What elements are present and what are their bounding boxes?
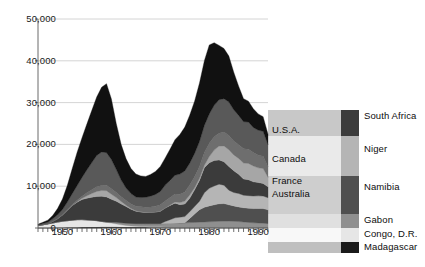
y-tick-label: 20,000 [2,139,56,149]
area-series-group [38,43,268,228]
legend-label-south-africa: South Africa [364,110,416,121]
legend-label-congo-d-r: Congo, D.R. [364,228,417,239]
inline-label-australia: Australia [272,188,310,199]
x-tick-label: 1960 [91,226,131,237]
inline-label-france: France [272,175,302,186]
x-tick-label: 1990 [238,226,278,237]
y-tick-label: 30,000 [2,98,56,108]
legend-swatch [341,242,359,253]
x-tick-label: 1980 [189,226,229,237]
legend-swatch [341,214,359,228]
legend-label-niger: Niger [364,143,387,154]
inline-label-u-s-a: U.S.A. [272,124,300,135]
legend-swatch-column [341,110,359,256]
y-tick-label: 50,000 [2,14,56,24]
legend-swatch [341,228,359,242]
legend-swatch [341,136,359,176]
legend-label-namibia: Namibia [364,181,400,192]
y-tick-label: 40,000 [2,56,56,66]
x-tick-label: 1950 [42,226,82,237]
y-tick-label: 10,000 [2,181,56,191]
inline-label-canada: Canada [272,153,306,164]
chart-figure: 010,00020,00030,00040,00050,000 19501960… [0,0,425,267]
x-tick-label: 1970 [140,226,180,237]
legend-swatch [341,176,359,214]
legend-swatch [341,110,359,136]
legend-label-madagascar: Madagascar [364,241,417,252]
legend-label-gabon: Gabon [364,214,393,225]
chart-legend: South AfricaNigerNamibiaGabonCongo, D.R.… [341,110,425,260]
